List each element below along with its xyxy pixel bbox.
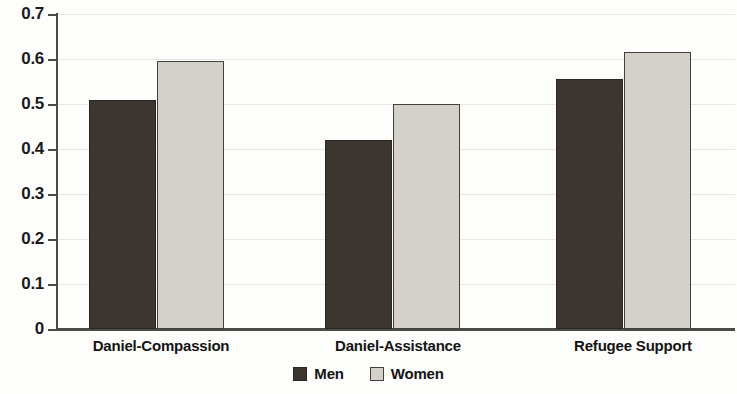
y-axis-label-4: 0.3	[0, 184, 44, 204]
y-axis-tick	[48, 14, 57, 16]
chart-legend: Men Women	[0, 365, 737, 382]
bar-women-0[interactable]	[157, 61, 224, 329]
y-axis-label-3: 0.4	[0, 139, 44, 159]
bar-men-1[interactable]	[325, 140, 392, 329]
y-axis-tick	[48, 284, 57, 286]
category-label-0: Daniel-Compassion	[56, 337, 266, 354]
bar-men-2[interactable]	[556, 79, 623, 329]
legend-swatch-men-icon	[293, 367, 307, 381]
category-label-1: Daniel-Assistance	[293, 337, 503, 354]
bar-chart: 0.7 0.6 0.5 0.4 0.3 0.2 0.1 0 Daniel-Com…	[0, 0, 737, 394]
bar-women-2[interactable]	[624, 52, 691, 329]
legend-item-women[interactable]: Women	[370, 365, 444, 382]
legend-item-men[interactable]: Men	[293, 365, 343, 382]
category-label-2: Refugee Support	[528, 337, 737, 354]
y-axis-tick	[48, 104, 57, 106]
y-axis-tick	[48, 329, 57, 331]
y-axis-tick	[48, 149, 57, 151]
y-axis-label-1: 0.6	[0, 49, 44, 69]
y-axis-label-7: 0	[0, 319, 44, 339]
y-axis-label-2: 0.5	[0, 94, 44, 114]
y-axis-label-5: 0.2	[0, 229, 44, 249]
bar-men-0[interactable]	[89, 100, 156, 330]
legend-label-men: Men	[314, 365, 343, 382]
bar-women-1[interactable]	[393, 104, 460, 329]
y-axis-label-0: 0.7	[0, 4, 44, 24]
y-axis-tick	[48, 59, 57, 61]
legend-swatch-women-icon	[370, 367, 384, 381]
y-axis-label-6: 0.1	[0, 274, 44, 294]
gridline	[58, 14, 735, 15]
y-axis-tick	[48, 239, 57, 241]
y-axis-tick	[48, 194, 57, 196]
legend-label-women: Women	[391, 365, 444, 382]
